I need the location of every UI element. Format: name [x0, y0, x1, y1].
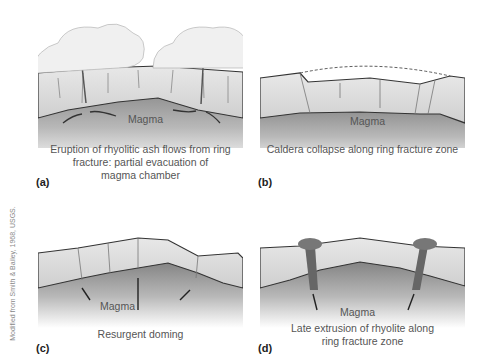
magma-label: Magma: [350, 115, 385, 127]
ring-fracture-eruption-illustration: [38, 18, 243, 148]
panel-caption: Late extrusion of rhyolite along ring fr…: [260, 322, 465, 348]
panel-label: (d): [258, 342, 272, 354]
panel-caption: Resurgent doming: [38, 328, 243, 341]
panel-label: (a): [36, 176, 49, 188]
panel-d: Magma Late extrusion of rhyolite along r…: [260, 218, 465, 358]
magma-label: Magma: [340, 306, 375, 318]
magma-label: Magma: [128, 113, 163, 125]
panel-a: Magma Eruption of rhyolitic ash flows fr…: [38, 18, 243, 198]
panel-label: (b): [258, 176, 272, 188]
caldera-collapse-illustration: [260, 18, 465, 148]
panel-c: Magma Resurgent doming (c): [38, 218, 243, 358]
panel-caption: Eruption of rhyolitic ash flows from rin…: [38, 143, 243, 182]
figure-credit: Modified from Smith & Bailey, 1968, USGS…: [9, 204, 16, 344]
magma-label: Magma: [100, 300, 135, 312]
panel-label: (c): [36, 342, 49, 354]
panel-caption: Caldera collapse along ring fracture zon…: [260, 143, 465, 156]
panel-b: Magma Caldera collapse along ring fractu…: [260, 18, 465, 198]
resurgent-doming-illustration: [38, 218, 243, 328]
